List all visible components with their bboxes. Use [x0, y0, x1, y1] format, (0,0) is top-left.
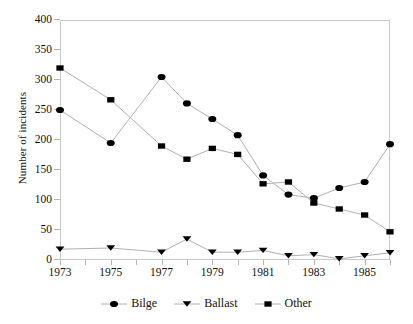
data-point-marker	[386, 141, 394, 147]
data-point-marker	[183, 157, 190, 162]
chart-legend: BilgeBallastOther	[0, 296, 413, 311]
line-chart: Number of incidents 05010015020025030035…	[0, 0, 413, 324]
legend-item-other[interactable]: Other	[255, 296, 312, 311]
data-point-marker	[234, 132, 242, 138]
data-point-marker	[285, 179, 292, 184]
y-tick-label: 0	[6, 254, 52, 266]
data-point-marker	[107, 140, 115, 146]
triangle-marker-icon	[174, 298, 200, 310]
legend-label: Other	[285, 296, 312, 311]
circle-marker-icon	[101, 298, 127, 310]
x-tick-mark	[263, 260, 264, 265]
x-tick-mark	[212, 260, 213, 265]
y-tick-label: 50	[6, 224, 52, 236]
x-tick-mark	[85, 260, 86, 265]
square-marker-icon	[255, 298, 281, 310]
data-point-marker	[158, 143, 165, 148]
data-point-marker	[335, 185, 343, 191]
data-point-marker	[208, 116, 216, 122]
x-tick-mark	[314, 260, 315, 265]
x-tick-mark	[288, 260, 289, 265]
y-tick-label: 250	[6, 104, 52, 116]
series-ballast	[56, 236, 395, 261]
data-point-marker	[361, 179, 369, 185]
y-tick-label: 100	[6, 194, 52, 206]
x-tick-mark	[365, 260, 366, 265]
data-point-marker	[361, 212, 368, 217]
y-tick-label: 200	[6, 134, 52, 146]
series-bilge	[56, 74, 394, 201]
y-tick-label: 400	[6, 14, 52, 26]
x-tick-mark	[136, 260, 137, 265]
x-tick-mark	[390, 260, 391, 265]
x-tick-mark	[187, 260, 188, 265]
x-tick-mark	[162, 260, 163, 265]
data-point-marker	[310, 200, 317, 205]
x-tick-label: 1985	[335, 266, 395, 278]
plot-series-layer	[60, 20, 390, 260]
data-point-marker	[386, 229, 393, 234]
data-point-marker	[259, 172, 267, 178]
x-tick-mark	[60, 260, 61, 265]
legend-label: Ballast	[204, 296, 237, 311]
data-point-marker	[234, 152, 241, 157]
data-point-marker	[336, 206, 343, 211]
data-point-marker	[56, 107, 64, 113]
y-tick-label: 350	[6, 44, 52, 56]
data-point-marker	[183, 100, 191, 106]
legend-label: Bilge	[131, 296, 157, 311]
legend-item-bilge[interactable]: Bilge	[101, 296, 157, 311]
x-tick-mark	[238, 260, 239, 265]
data-point-marker	[284, 192, 292, 198]
series-other	[56, 65, 393, 234]
x-tick-mark	[111, 260, 112, 265]
data-point-marker	[107, 97, 114, 102]
y-tick-label: 150	[6, 164, 52, 176]
y-tick-label: 300	[6, 74, 52, 86]
data-point-marker	[259, 181, 266, 186]
data-point-marker	[56, 65, 63, 70]
data-point-marker	[209, 146, 216, 151]
data-point-marker	[158, 74, 166, 80]
legend-item-ballast[interactable]: Ballast	[174, 296, 237, 311]
series-line	[60, 77, 390, 198]
